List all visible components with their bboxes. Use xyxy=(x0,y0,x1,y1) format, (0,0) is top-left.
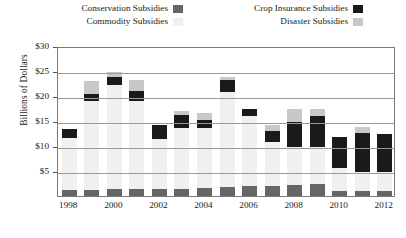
legend-item-crop-insurance: Crop Insurance Subsidies xyxy=(189,3,375,14)
legend-label-crop-insurance: Crop Insurance Subsidies xyxy=(254,3,348,14)
plot-area: $5$10$15$20$25$30 xyxy=(57,47,395,197)
x-axis-tick-label: 2008 xyxy=(274,200,314,211)
legend-swatch-conservation xyxy=(173,5,183,13)
y-axis-tick-label: $30 xyxy=(1,42,49,51)
legend-swatch-crop-insurance xyxy=(353,5,363,13)
x-axis-tick-label: 2002 xyxy=(138,200,178,211)
y-axis-tick-label: $15 xyxy=(1,117,49,126)
y-axis-tick-mark xyxy=(53,147,57,148)
legend-row: Commodity Subsidies Disaster Subsidies xyxy=(0,16,406,27)
y-axis-ticks: $5$10$15$20$25$30 xyxy=(57,47,395,197)
chart-root: Conservation Subsidies Crop Insurance Su… xyxy=(0,0,406,238)
x-axis-tick-label: 2010 xyxy=(319,200,359,211)
legend-swatch-disaster xyxy=(353,18,363,26)
x-axis-tick-label: 2004 xyxy=(183,200,223,211)
legend-item-commodity: Commodity Subsidies xyxy=(31,16,189,27)
y-axis-tick-label: $25 xyxy=(1,67,49,76)
y-axis-tick-label: $20 xyxy=(1,92,49,101)
legend-label-disaster: Disaster Subsidies xyxy=(280,16,348,27)
y-axis-tick-label: $5 xyxy=(1,167,49,176)
legend-row: Conservation Subsidies Crop Insurance Su… xyxy=(0,3,406,14)
y-axis-tick-mark xyxy=(53,172,57,173)
chart-legend: Conservation Subsidies Crop Insurance Su… xyxy=(0,3,406,27)
x-axis-tick-label: 2006 xyxy=(229,200,269,211)
legend-item-conservation: Conservation Subsidies xyxy=(31,3,189,14)
legend-swatch-commodity xyxy=(173,18,183,26)
legend-label-commodity: Commodity Subsidies xyxy=(87,16,168,27)
x-axis-tick-label: 2000 xyxy=(93,200,133,211)
y-axis-tick-mark xyxy=(53,72,57,73)
x-axis-tick-label: 1998 xyxy=(48,200,88,211)
y-axis-tick-mark xyxy=(53,97,57,98)
x-axis-ticks: 19982000200220042006200820102012 xyxy=(57,200,395,220)
y-axis-tick-label: $10 xyxy=(1,142,49,151)
y-axis-tick-mark xyxy=(53,122,57,123)
legend-item-disaster: Disaster Subsidies xyxy=(189,16,375,27)
legend-label-conservation: Conservation Subsidies xyxy=(81,3,168,14)
y-axis-tick-mark xyxy=(53,47,57,48)
x-axis-tick-label: 2012 xyxy=(364,200,404,211)
